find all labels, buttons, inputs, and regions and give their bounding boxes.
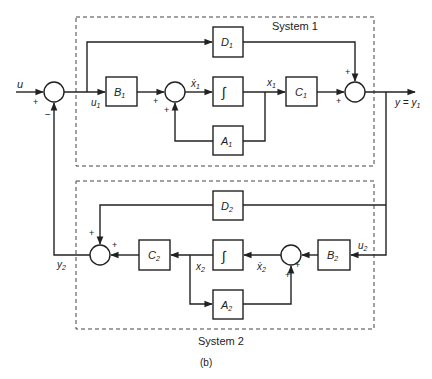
signal-y2: y2 xyxy=(56,259,66,271)
sign-plus: + xyxy=(33,97,38,107)
system1-label: System 1 xyxy=(272,20,318,32)
signal-x1: x1 xyxy=(266,77,276,89)
figure-caption: (b) xyxy=(200,357,212,368)
svg-text:+: + xyxy=(89,228,94,238)
svg-text:+: + xyxy=(112,240,117,250)
svg-text:+: + xyxy=(164,105,169,115)
block-diagram: System 1 System 2 u + − u1 D1 + B1 + + ẋ… xyxy=(0,0,432,379)
svg-text:+: + xyxy=(285,270,290,280)
summing-junction-main xyxy=(44,82,64,102)
system2-label: System 2 xyxy=(198,335,244,347)
signal-y: y = y1 xyxy=(394,97,420,109)
svg-text:+: + xyxy=(153,96,158,106)
svg-text:+: + xyxy=(345,67,350,77)
signal-x1dot: ẋ1 xyxy=(190,78,200,90)
signal-x2: x2 xyxy=(195,261,205,273)
summing-junction-1a xyxy=(165,82,185,102)
summing-junction-2a xyxy=(281,245,301,265)
signal-x2dot: ẋ2 xyxy=(256,261,266,273)
signal-u1: u1 xyxy=(91,97,101,109)
summing-junction-output-2 xyxy=(90,245,110,265)
signal-u: u xyxy=(17,78,23,90)
summing-junction-output-1 xyxy=(345,82,365,102)
sign-minus: − xyxy=(45,109,51,120)
block-integrator-1 xyxy=(213,77,243,106)
signal-u2: u2 xyxy=(358,240,368,252)
svg-text:+: + xyxy=(336,96,341,106)
block-integrator-2 xyxy=(213,240,243,270)
